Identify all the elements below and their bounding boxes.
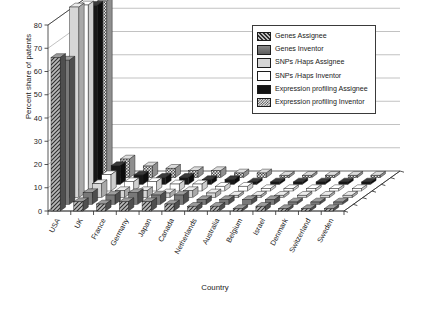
svg-text:Canada: Canada bbox=[156, 216, 176, 244]
legend-swatch-genes-assignee bbox=[257, 32, 271, 42]
legend-item: Expression profiling Inventor bbox=[257, 96, 371, 109]
svg-text:Netherlands: Netherlands bbox=[172, 216, 199, 255]
legend-swatch-snps-haps-inventor bbox=[257, 71, 271, 81]
x-tick-label: Denmark bbox=[268, 216, 290, 247]
legend-item: Expression profiling Assignee bbox=[257, 83, 371, 96]
legend-label: Genes Assignee bbox=[275, 33, 327, 40]
svg-text:10: 10 bbox=[34, 183, 42, 192]
svg-text:70: 70 bbox=[34, 44, 42, 53]
legend-swatch-expression-assignee bbox=[257, 85, 271, 95]
chart-figure: Percent share of patents Country 0102030… bbox=[0, 0, 426, 309]
svg-text:UK: UK bbox=[72, 217, 85, 230]
legend-swatch-expression-inventor bbox=[257, 98, 271, 108]
x-tick-label: Sweden bbox=[315, 217, 335, 245]
x-tick-label: Germany bbox=[108, 216, 130, 247]
legend-item: SNPs /Haps Assignee bbox=[257, 56, 371, 69]
legend-label: SNPs /Haps Inventor bbox=[275, 73, 341, 80]
svg-text:Japan: Japan bbox=[136, 217, 153, 239]
svg-text:France: France bbox=[89, 217, 108, 241]
x-tick-label: USA bbox=[47, 217, 62, 235]
svg-text:Australia: Australia bbox=[200, 216, 222, 246]
legend-swatch-snps-haps-assignee bbox=[257, 58, 271, 68]
svg-text:Germany: Germany bbox=[108, 216, 130, 247]
svg-text:Belgium: Belgium bbox=[224, 217, 244, 245]
x-tick-label: Australia bbox=[200, 216, 222, 246]
x-tick-label: Netherlands bbox=[172, 216, 199, 255]
svg-text:0: 0 bbox=[38, 207, 42, 216]
legend-label: Expression profiling Inventor bbox=[275, 99, 365, 106]
legend-label: SNPs /Haps Assignee bbox=[275, 59, 344, 66]
x-tick-label: Canada bbox=[156, 216, 176, 244]
x-tick-label: Japan bbox=[136, 217, 153, 239]
legend-item: Genes Assignee bbox=[257, 30, 371, 43]
svg-text:Israel: Israel bbox=[251, 216, 268, 236]
svg-text:Denmark: Denmark bbox=[268, 216, 290, 247]
legend-swatch-genes-inventor bbox=[257, 45, 271, 55]
legend-item: Genes Inventor bbox=[257, 43, 371, 56]
svg-text:40: 40 bbox=[34, 114, 42, 123]
svg-text:80: 80 bbox=[34, 21, 42, 30]
svg-text:30: 30 bbox=[34, 137, 42, 146]
x-tick-label: Belgium bbox=[224, 217, 244, 245]
x-tick-label: Israel bbox=[251, 216, 268, 236]
svg-text:60: 60 bbox=[34, 67, 42, 76]
x-tick-label: Switzerland bbox=[287, 217, 313, 255]
legend-item: SNPs /Haps Inventor bbox=[257, 70, 371, 83]
svg-text:USA: USA bbox=[47, 217, 62, 235]
svg-text:Sweden: Sweden bbox=[315, 217, 335, 245]
legend-label: Expression profiling Assignee bbox=[275, 86, 368, 93]
svg-text:Switzerland: Switzerland bbox=[287, 217, 313, 255]
svg-text:20: 20 bbox=[34, 160, 42, 169]
legend: Genes Assignee Genes Inventor SNPs /Haps… bbox=[252, 25, 376, 114]
svg-text:50: 50 bbox=[34, 90, 42, 99]
x-tick-label: UK bbox=[72, 217, 85, 230]
bar bbox=[51, 54, 66, 211]
legend-label: Genes Inventor bbox=[275, 46, 324, 53]
x-tick-label: France bbox=[89, 217, 108, 241]
